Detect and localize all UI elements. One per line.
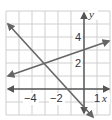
x-tick-1: 1 bbox=[94, 92, 100, 104]
y-tick-2: 2 bbox=[75, 57, 81, 69]
x-tick-neg4: −4 bbox=[24, 92, 37, 104]
y-axis-label: y bbox=[88, 8, 94, 20]
coordinate-plane: y x 4 2 −4 −2 1 bbox=[0, 0, 112, 120]
x-axis-label: x bbox=[101, 92, 107, 104]
y-tick-4: 4 bbox=[75, 31, 81, 43]
x-tick-neg2: −2 bbox=[50, 92, 63, 104]
